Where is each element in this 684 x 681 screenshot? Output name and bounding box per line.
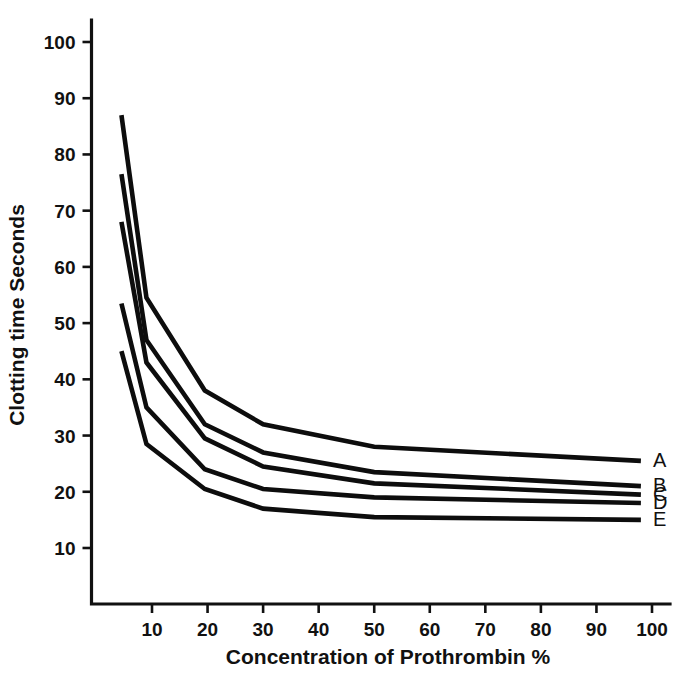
x-tick-label: 30: [253, 619, 274, 640]
y-tick-label: 60: [54, 257, 75, 278]
series-label-a: A: [653, 449, 667, 471]
y-tick-label: 10: [54, 538, 75, 559]
chart-container: 102030405060708090100 102030405060708090…: [0, 0, 684, 681]
x-tick-label: 90: [586, 619, 607, 640]
x-tick-label: 40: [308, 619, 329, 640]
y-tick-label: 50: [54, 313, 75, 334]
x-axis-title: Concentration of Prothrombin %: [226, 645, 551, 668]
x-tick-label: 50: [364, 619, 385, 640]
series-line-b: [121, 174, 640, 486]
y-tick-label: 90: [54, 88, 75, 109]
series-line-e: [121, 351, 640, 520]
y-axis-ticks: 102030405060708090100: [44, 32, 92, 559]
series-line-c: [121, 222, 640, 495]
y-tick-label: 100: [44, 32, 76, 53]
data-series-group: [121, 115, 640, 520]
x-axis-ticks: 102030405060708090100: [141, 604, 667, 640]
x-tick-label: 10: [141, 619, 162, 640]
x-tick-label: 20: [197, 619, 218, 640]
line-chart: 102030405060708090100 102030405060708090…: [0, 0, 684, 681]
y-axis-title: Clotting time Seconds: [5, 204, 28, 426]
series-label-e: E: [653, 508, 666, 530]
y-tick-label: 30: [54, 426, 75, 447]
x-tick-label: 80: [530, 619, 551, 640]
y-tick-label: 40: [54, 369, 75, 390]
x-tick-label: 60: [419, 619, 440, 640]
y-tick-label: 80: [54, 144, 75, 165]
y-tick-label: 70: [54, 201, 75, 222]
series-labels-group: ABCDE: [653, 449, 667, 530]
y-tick-label: 20: [54, 482, 75, 503]
x-tick-label: 70: [475, 619, 496, 640]
x-tick-label: 100: [636, 619, 668, 640]
series-line-a: [121, 115, 640, 461]
